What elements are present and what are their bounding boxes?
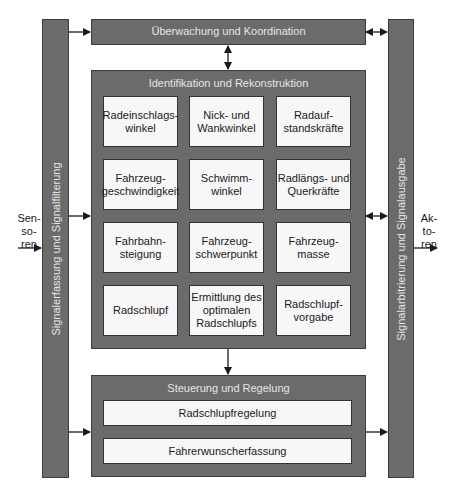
connector-arrows <box>0 0 453 491</box>
